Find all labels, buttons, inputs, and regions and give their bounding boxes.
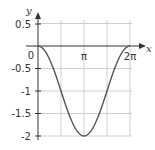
x-tick-pi: π: [81, 51, 87, 62]
y-tick-neg0.5: -0.5: [11, 63, 31, 74]
y-tick-neg1.5: -1.5: [11, 108, 31, 119]
y-axis-label: y: [25, 5, 32, 16]
y-axis: [35, 12, 41, 140]
y-axis-arrow-icon: [35, 12, 41, 19]
y-tick-neg1: -1: [21, 86, 31, 97]
x-tick-2pi: 2π: [124, 51, 136, 62]
x-tick-origin: 0: [28, 50, 34, 61]
x-axis-arrow-icon: [139, 43, 146, 49]
chart-canvas: x y 0 π 2π 0.5 -0.5 -1 -1.5 -2: [0, 0, 155, 150]
y-tick-0.5: 0.5: [15, 19, 31, 30]
grid: [38, 20, 132, 136]
x-axis-label: x: [146, 43, 152, 54]
y-tick-neg2: -2: [21, 131, 31, 142]
